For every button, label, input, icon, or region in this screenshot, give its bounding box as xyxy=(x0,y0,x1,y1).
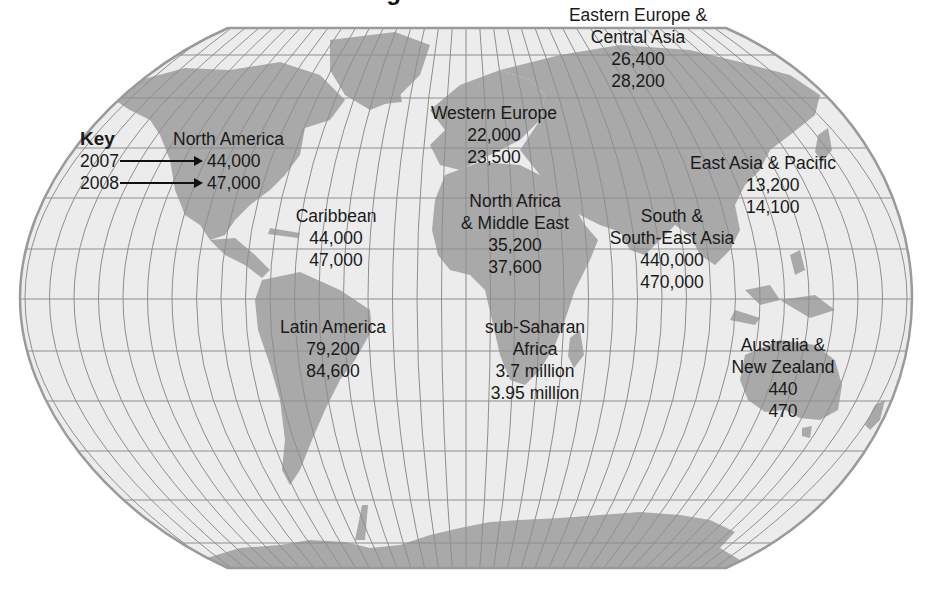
region-label-north-america: North America 44,000 47,000 xyxy=(173,128,284,194)
region-label-east-asia-pacific: East Asia & Pacific 13,200 14,100 xyxy=(690,152,836,218)
region-label-western-europe: Western Europe 22,000 23,500 xyxy=(420,102,568,168)
region-label-south-southeast-asia: South & South-East Asia 440,000 470,000 xyxy=(597,205,747,293)
region-label-latin-america: Latin America 79,200 84,600 xyxy=(270,316,396,382)
key-year-2008: 2008 xyxy=(80,172,119,194)
region-label-australia-new-zealand: Australia & New Zealand 440 470 xyxy=(730,334,836,422)
world-map xyxy=(0,0,930,597)
region-label-sub-saharan-africa: sub-Saharan Africa 3.7 million 3.95 mill… xyxy=(475,316,595,404)
key-year-2007: 2007 xyxy=(80,150,119,172)
region-label-caribbean: Caribbean 44,000 47,000 xyxy=(288,205,384,271)
region-label-north-africa-middle-east: North Africa & Middle East 35,200 37,600 xyxy=(450,190,580,278)
region-label-eastern-europe-central-asia: Eastern Europe & Central Asia 26,400 28,… xyxy=(560,4,716,92)
